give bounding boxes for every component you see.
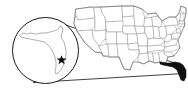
state-kansas: [128, 34, 138, 44]
state-wyoming: [106, 21, 123, 32]
state-maryland-delaware: [172, 33, 181, 39]
state-south-dakota: [123, 16, 135, 26]
highlighted-state-florida-group: [160, 62, 186, 81]
state-arizona: [99, 44, 109, 56]
state-wisconsin: [144, 17, 153, 27]
state-ohio: [159, 26, 167, 38]
state-nebraska: [123, 26, 137, 34]
inset-magnifier-group: [13, 18, 79, 84]
state-new-york: [162, 17, 178, 26]
inset-circle-border: [13, 18, 79, 84]
state-north-dakota: [122, 6, 134, 17]
locator-map-figure: [0, 0, 188, 91]
us-states-group: [74, 6, 186, 70]
map-canvas: [0, 0, 188, 91]
state-arkansas: [138, 46, 148, 54]
state-kentucky: [148, 38, 165, 46]
state-colorado: [117, 32, 128, 44]
state-iowa: [135, 26, 145, 34]
state-new-jersey: [177, 28, 181, 33]
state-michigan: [152, 16, 162, 27]
state-utah: [106, 30, 117, 44]
state-minnesota: [134, 6, 145, 26]
state-oklahoma: [128, 43, 139, 50]
highlighted-state-florida: [160, 62, 186, 81]
